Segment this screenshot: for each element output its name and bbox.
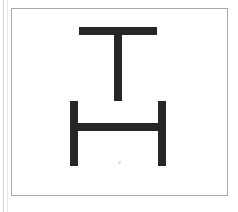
glyph-layer xyxy=(0,0,238,212)
figure-canvas: T and H stroke figure A black capital T … xyxy=(0,0,238,212)
h-crossbar xyxy=(70,123,166,131)
speck-artifact xyxy=(118,161,121,164)
h-right-post xyxy=(158,101,166,166)
t-stem xyxy=(114,27,122,101)
h-left-post xyxy=(70,101,78,166)
